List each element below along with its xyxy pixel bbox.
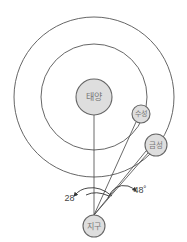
venus-angle-label: 48˚ bbox=[133, 185, 146, 195]
earth-label: 지구 bbox=[87, 222, 101, 231]
earth: 지구 bbox=[83, 215, 105, 237]
mercury-label: 수성 bbox=[135, 109, 147, 118]
sun: 태양 bbox=[76, 79, 112, 115]
earth-venus-line-2 bbox=[94, 151, 146, 215]
elongation-diagram: 28˚ 48˚ 태양 수성 금성 지구 bbox=[0, 0, 187, 242]
mercury-angle-label: 28˚ bbox=[64, 193, 77, 203]
earth-venus-line bbox=[94, 153, 148, 215]
venus: 금성 bbox=[145, 134, 167, 156]
venus-angle-arrow bbox=[108, 186, 135, 199]
sun-label: 태양 bbox=[86, 92, 102, 102]
venus-label: 금성 bbox=[149, 141, 163, 150]
mercury: 수성 bbox=[132, 105, 150, 123]
angle-arc-inner bbox=[86, 193, 109, 196]
